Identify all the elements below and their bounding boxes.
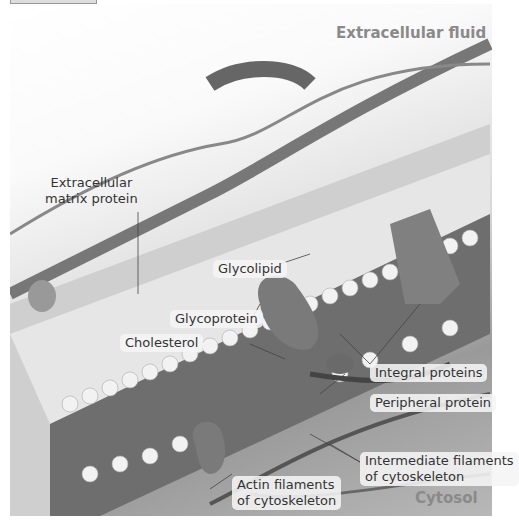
label-integral-proteins: Integral proteins [370, 364, 487, 382]
label-line: Actin filaments [237, 477, 336, 493]
label-glycolipid: Glycolipid [213, 260, 287, 278]
label-line: matrix protein [45, 191, 138, 207]
label-line: Intermediate filaments [365, 453, 514, 469]
label-cholesterol: Cholesterol [120, 334, 203, 352]
membrane-illustration: Extracellular fluid Cytosol Extracellula… [10, 4, 492, 516]
label-intermediate-filaments: Intermediate filaments of cytoskeleton [360, 452, 519, 486]
label-actin-filaments: Actin filaments of cytoskeleton [232, 476, 341, 510]
label-glycoprotein: Glycoprotein [170, 310, 263, 328]
label-extracellular-matrix-protein: Extracellular matrix protein [40, 174, 143, 208]
label-line: Extracellular [45, 175, 138, 191]
label-line: of cytoskeleton [237, 493, 336, 509]
region-extracellular-fluid: Extracellular fluid [336, 24, 486, 42]
label-peripheral-protein: Peripheral protein [370, 394, 496, 412]
label-line: of cytoskeleton [365, 469, 514, 485]
region-cytosol: Cytosol [415, 489, 478, 507]
